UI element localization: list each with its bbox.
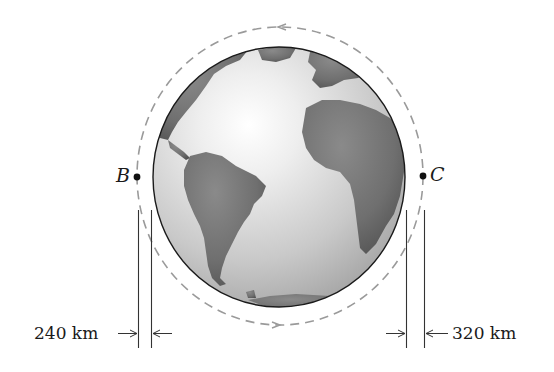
point-b-label: B [116,166,130,185]
dimension-left-label: 240 km [34,325,98,342]
point-c-label: C [430,165,445,184]
dimension-right-lines [407,210,425,348]
earth-globe [150,46,406,312]
point-b-marker [134,174,141,181]
point-c-marker [420,173,427,180]
orbit-diagram: B C 240 km 320 km [0,0,554,372]
dimension-left-lines [139,210,152,348]
dimension-left-arrows [118,330,172,337]
dimension-right-arrows [386,330,448,337]
diagram-canvas [0,0,554,372]
dimension-right-label: 320 km [452,325,516,342]
